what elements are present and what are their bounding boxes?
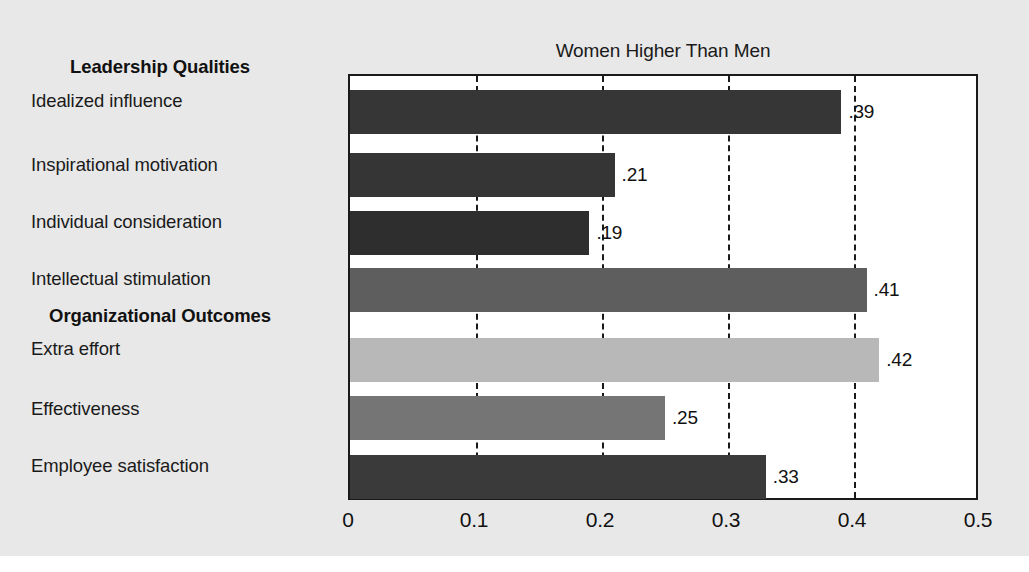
category-label-idealized-influence: Idealized influence	[31, 90, 182, 112]
category-label-employee-satisfaction: Employee satisfaction	[31, 455, 209, 477]
plot-inner: .39.21.19.41.42.25.33	[350, 76, 976, 498]
bar-intellectual-stimulation	[350, 268, 867, 312]
section-header-organizational-outcomes: Organizational Outcomes	[0, 305, 320, 327]
bar-value-intellectual-stimulation: .41	[874, 279, 900, 301]
chart-title: Women Higher Than Men	[348, 40, 978, 62]
x-tick-label-0.5: 0.5	[964, 508, 992, 532]
bar-idealized-influence	[350, 90, 841, 134]
category-label-intellectual-stimulation: Intellectual stimulation	[31, 268, 211, 290]
x-tick-label-0.3: 0.3	[712, 508, 740, 532]
category-label-column: Leadership Qualities Idealized influence…	[0, 0, 348, 572]
category-label-inspirational-motivation: Inspirational motivation	[31, 154, 218, 176]
bar-individual-consideration	[350, 211, 589, 255]
bar-value-idealized-influence: .39	[848, 101, 874, 123]
bottom-strip	[0, 556, 1029, 572]
category-label-individual-consideration: Individual consideration	[31, 211, 222, 233]
bar-value-employee-satisfaction: .33	[773, 466, 799, 488]
x-tick-label-0: 0	[342, 508, 353, 532]
x-axis: 00.10.20.30.40.5	[348, 508, 978, 542]
bar-employee-satisfaction	[350, 455, 766, 499]
plot-area: .39.21.19.41.42.25.33	[348, 74, 978, 500]
category-label-extra-effort: Extra effort	[31, 338, 120, 360]
category-label-effectiveness: Effectiveness	[31, 398, 139, 420]
x-tick-label-0.4: 0.4	[838, 508, 866, 532]
bar-value-extra-effort: .42	[886, 349, 912, 371]
bar-value-inspirational-motivation: .21	[622, 164, 648, 186]
section-header-leadership-qualities: Leadership Qualities	[0, 56, 320, 78]
x-tick-label-0.1: 0.1	[460, 508, 488, 532]
bar-extra-effort	[350, 338, 879, 382]
bar-effectiveness	[350, 396, 665, 440]
bar-value-effectiveness: .25	[672, 407, 698, 429]
bar-value-individual-consideration: .19	[596, 222, 622, 244]
x-tick-label-0.2: 0.2	[586, 508, 614, 532]
bar-inspirational-motivation	[350, 153, 615, 197]
chart-figure: Women Higher Than Men Leadership Qualiti…	[0, 0, 1029, 572]
